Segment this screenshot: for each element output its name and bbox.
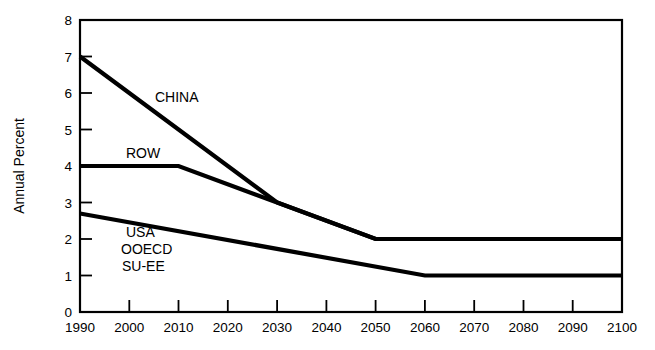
series-label-row: ROW xyxy=(126,145,161,161)
y-tick-label: 8 xyxy=(64,13,72,28)
x-tick-label: 2020 xyxy=(213,320,243,335)
x-tick-label: 2070 xyxy=(459,320,489,335)
y-axis-labels: 0 1 2 3 4 5 6 7 8 xyxy=(64,13,72,320)
chart-container: 0 1 2 3 4 5 6 7 8 1990 2000 2010 xyxy=(0,0,655,350)
y-tick-label: 0 xyxy=(64,305,72,320)
series-label-china: CHINA xyxy=(155,89,199,105)
x-tick-label: 2030 xyxy=(262,320,292,335)
line-chart: 0 1 2 3 4 5 6 7 8 1990 2000 2010 xyxy=(0,0,655,350)
x-tick-label: 2060 xyxy=(410,320,440,335)
x-tick-label: 2010 xyxy=(163,320,193,335)
series-label-su-ee: SU-EE xyxy=(122,258,165,274)
y-tick-label: 7 xyxy=(64,50,72,65)
x-tick-label: 1990 xyxy=(65,320,95,335)
y-tick-label: 1 xyxy=(64,269,72,284)
y-tick-label: 2 xyxy=(64,232,72,247)
y-tick-label: 4 xyxy=(64,159,72,174)
series-label-ooecd: OOECD xyxy=(121,241,172,257)
x-tick-label: 2050 xyxy=(361,320,391,335)
x-tick-label: 2090 xyxy=(558,320,588,335)
y-tick-label: 6 xyxy=(64,86,72,101)
y-tick-label: 3 xyxy=(64,196,72,211)
chart-background xyxy=(0,0,655,350)
x-tick-label: 2000 xyxy=(114,320,144,335)
y-tick-label: 5 xyxy=(64,123,72,138)
series-label-usa: USA xyxy=(126,224,155,240)
x-tick-label: 2100 xyxy=(607,320,637,335)
x-tick-label: 2040 xyxy=(311,320,341,335)
y-axis-title: Annual Percent xyxy=(11,118,27,214)
x-tick-label: 2080 xyxy=(508,320,538,335)
